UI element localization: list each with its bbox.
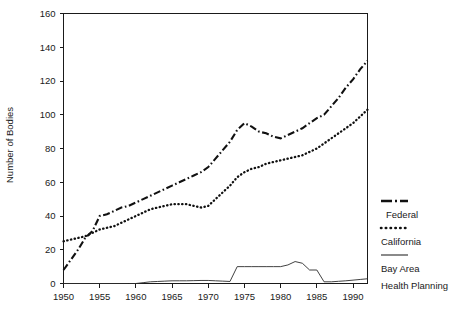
y-tick-label: 160 (40, 8, 56, 19)
x-tick-label: 1955 (89, 291, 110, 302)
y-tick-label: 0 (50, 278, 55, 289)
y-tick-label: 20 (45, 244, 56, 255)
x-axis-ticks (64, 284, 354, 288)
x-tick-label: 1965 (162, 291, 183, 302)
x-tick-label: 1985 (306, 291, 327, 302)
x-tick-label: 1970 (198, 291, 219, 302)
y-axis-ticks (60, 14, 64, 284)
y-tick-label: 140 (40, 42, 56, 53)
y-tick-label: 120 (40, 75, 56, 86)
y-tick-label: 40 (45, 210, 56, 221)
x-tick-label: 1950 (53, 291, 74, 302)
series-line-federal (64, 61, 368, 270)
chart-series-group (64, 61, 368, 284)
axis-frame (64, 14, 368, 284)
y-tick-label: 80 (45, 143, 56, 154)
line-chart: 020406080100120140160 195019551960196519… (0, 0, 467, 311)
legend-label-federal: Federal (386, 209, 418, 220)
y-tick-label: 100 (40, 109, 56, 120)
chart-legend: Federal California Bay Area Health Plann… (381, 201, 448, 291)
y-axis-title: Number of Bodies (4, 107, 15, 183)
x-tick-label: 1990 (342, 291, 363, 302)
chart-axes: 020406080100120140160 195019551960196519… (40, 8, 368, 302)
legend-label-health-planning: Health Planning (381, 280, 448, 291)
x-tick-label: 1980 (270, 291, 291, 302)
y-tick-label: 60 (45, 177, 56, 188)
chart-figure: 020406080100120140160 195019551960196519… (0, 0, 467, 311)
legend-label-california: California (381, 236, 422, 247)
legend-label-bay-area: Bay Area (381, 263, 420, 274)
x-tick-label: 1975 (234, 291, 255, 302)
series-line-bay-area-health-planning (64, 262, 368, 284)
series-line-california (64, 110, 368, 242)
y-axis-tick-labels: 020406080100120140160 (40, 8, 56, 289)
x-axis-tick-labels: 195019551960196519701975198019851990 (53, 291, 364, 302)
x-tick-label: 1960 (125, 291, 146, 302)
